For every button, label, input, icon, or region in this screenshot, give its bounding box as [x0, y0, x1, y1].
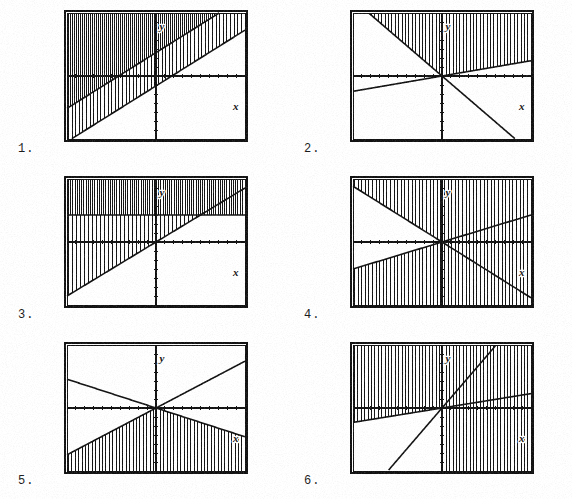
worksheet-page: 1.yx2.yx3.yx4.yx5.yx6.yx: [0, 0, 572, 499]
problem-6: 6.yx: [286, 332, 572, 498]
problem-number: 3.: [18, 308, 34, 322]
plot-3: yx: [62, 174, 250, 310]
y-axis-label: y: [444, 186, 451, 198]
x-axis-label: x: [518, 266, 525, 278]
problem-4: 4.yx: [286, 166, 572, 332]
problem-2: 2.yx: [286, 0, 572, 166]
problem-number: 4.: [304, 308, 320, 322]
problem-5: 5.yx: [0, 332, 286, 498]
y-axis-label: y: [158, 186, 165, 198]
x-axis-label: x: [518, 100, 525, 112]
x-axis-label: x: [232, 266, 239, 278]
plot-2: yx: [348, 8, 536, 144]
problem-number: 5.: [18, 474, 34, 488]
plot-4: yx: [348, 174, 536, 310]
x-axis-label: x: [518, 432, 525, 444]
plot-1: yx: [62, 8, 250, 144]
problem-number: 1.: [18, 142, 34, 156]
y-axis-label: y: [444, 20, 451, 32]
plot-5: yx: [62, 340, 250, 476]
y-axis-label: y: [158, 20, 165, 32]
problem-number: 2.: [304, 142, 320, 156]
problem-number: 6.: [304, 474, 320, 488]
problem-1: 1.yx: [0, 0, 286, 166]
x-axis-label: x: [232, 432, 239, 444]
y-axis-label: y: [158, 352, 165, 364]
x-axis-label: x: [232, 100, 239, 112]
y-axis-label: y: [444, 352, 451, 364]
problem-3: 3.yx: [0, 166, 286, 332]
plot-6: yx: [348, 340, 536, 476]
